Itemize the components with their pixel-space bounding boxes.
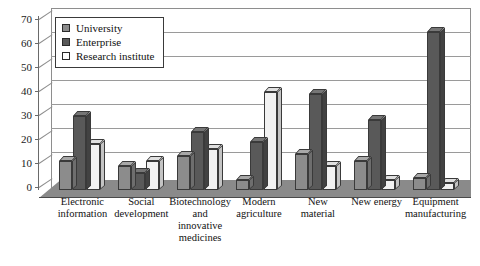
x-axis-label-line: innovative xyxy=(165,220,236,232)
bar-side-face xyxy=(277,87,282,190)
chart-legend: University Enterprise Research institute xyxy=(55,17,164,68)
x-axis-label-line: manufacturing xyxy=(400,208,471,220)
legend-item-university: University xyxy=(62,21,155,35)
x-axis-label-line: material xyxy=(282,208,353,220)
legend-swatch-university-icon xyxy=(62,24,70,32)
legend-label-research-institute: Research institute xyxy=(76,50,155,62)
y-tick-label-30: 30 xyxy=(21,110,32,121)
y-tick-label-60: 60 xyxy=(21,38,32,49)
legend-item-research-institute: Research institute xyxy=(62,49,155,63)
x-axis-labels: ElectronicinformationSocialdevelopmentBi… xyxy=(39,196,471,262)
bar-side-face xyxy=(367,157,372,190)
legend-swatch-enterprise-icon xyxy=(62,38,70,46)
bar-side-face xyxy=(440,27,445,190)
bar-side-face xyxy=(336,161,341,190)
bar-3-university xyxy=(177,156,190,190)
bar-front-face xyxy=(427,32,440,190)
y-axis: 70 60 50 40 30 20 10 0 xyxy=(0,0,36,266)
y-tick-label-10: 10 xyxy=(21,158,32,169)
bar-1-university xyxy=(59,161,72,190)
bar-front-face xyxy=(236,180,249,190)
bar-side-face xyxy=(308,149,313,190)
bar-side-face xyxy=(263,137,268,190)
y-tick-label-40: 40 xyxy=(21,86,32,97)
bar-side-face xyxy=(100,140,105,190)
bar-side-face xyxy=(190,152,195,190)
bar-5-university xyxy=(295,154,308,190)
bar-side-face xyxy=(381,116,386,190)
bar-side-face xyxy=(204,128,209,190)
bar-7-enterprise xyxy=(427,32,440,190)
bar-front-face xyxy=(59,161,72,190)
legend-label-enterprise: Enterprise xyxy=(76,36,121,48)
bar-side-face xyxy=(322,89,327,190)
legend-label-university: University xyxy=(76,22,122,34)
x-axis-label-line: medicines xyxy=(165,232,236,244)
bar-front-face xyxy=(354,161,367,190)
x-axis-label-line: Equipment xyxy=(400,196,471,208)
bar-side-face xyxy=(72,157,77,190)
bar-7-university xyxy=(413,178,426,190)
bar-chart: 70 60 50 40 30 20 10 0 xyxy=(0,0,480,266)
y-tick-label-70: 70 xyxy=(21,14,32,25)
bar-2-university xyxy=(118,166,131,190)
bar-front-face xyxy=(413,178,426,190)
bar-4-university xyxy=(236,180,249,190)
bar-6-university xyxy=(354,161,367,190)
bar-front-face xyxy=(118,166,131,190)
bar-side-face xyxy=(159,157,164,190)
y-tick-label-50: 50 xyxy=(21,62,32,73)
y-tick-label-20: 20 xyxy=(21,134,32,145)
legend-item-enterprise: Enterprise xyxy=(62,35,155,49)
bar-side-face xyxy=(218,145,223,190)
x-axis-label-7: Equipmentmanufacturing xyxy=(400,196,471,220)
legend-swatch-research-institute-icon xyxy=(62,52,70,60)
bar-side-face xyxy=(131,161,136,190)
bar-side-face xyxy=(86,111,91,190)
y-tick-label-0: 0 xyxy=(27,182,33,193)
bar-front-face xyxy=(295,154,308,190)
bar-front-face xyxy=(177,156,190,190)
